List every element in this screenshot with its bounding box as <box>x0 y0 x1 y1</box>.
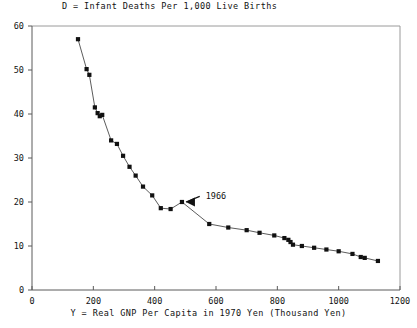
data-point-marker[interactable] <box>127 165 131 169</box>
data-point-marker[interactable] <box>359 255 363 259</box>
data-point-marker[interactable] <box>150 193 154 197</box>
data-point-marker[interactable] <box>134 174 138 178</box>
annotation-label-1966: 1966 <box>206 191 226 201</box>
data-point-marker[interactable] <box>272 233 276 237</box>
data-point-marker[interactable] <box>84 67 88 71</box>
y-axis-tick-label: 0 <box>19 285 24 295</box>
data-point-marker[interactable] <box>93 105 97 109</box>
y-axis-tick-label: 40 <box>14 109 24 119</box>
data-point-marker[interactable] <box>141 185 145 189</box>
x-axis-tick-label: 600 <box>208 296 223 306</box>
y-axis-tick-label: 20 <box>14 197 24 207</box>
data-point-marker[interactable] <box>337 249 341 253</box>
data-point-marker[interactable] <box>159 206 163 210</box>
data-point-marker[interactable] <box>115 142 119 146</box>
data-point-marker[interactable] <box>245 228 249 232</box>
y-axis-tick-label: 30 <box>14 153 24 163</box>
x-axis-tick-label: 800 <box>270 296 285 306</box>
y-axis-tick-label: 60 <box>14 21 24 31</box>
data-point-marker[interactable] <box>300 244 304 248</box>
data-point-marker[interactable] <box>87 73 91 77</box>
data-point-marker[interactable] <box>207 222 211 226</box>
data-point-marker[interactable] <box>169 207 173 211</box>
data-point-marker[interactable] <box>76 37 80 41</box>
data-point-marker[interactable] <box>291 243 295 247</box>
data-point-marker[interactable] <box>376 259 380 263</box>
chart-plot-area: 01020304050600200400600800100012001966 <box>0 0 417 328</box>
annotation-arrow-head <box>186 198 195 207</box>
x-axis-tick-label: 0 <box>29 296 34 306</box>
data-point-marker[interactable] <box>324 247 328 251</box>
data-point-marker[interactable] <box>109 138 113 142</box>
x-axis-tick-label: 1000 <box>328 296 348 306</box>
data-point-marker[interactable] <box>257 231 261 235</box>
data-point-marker[interactable] <box>100 113 104 117</box>
data-point-marker[interactable] <box>226 225 230 229</box>
data-point-marker[interactable] <box>350 252 354 256</box>
chart-container: D = Infant Deaths Per 1,000 Live Births … <box>0 0 417 328</box>
data-point-marker[interactable] <box>121 154 125 158</box>
x-axis-tick-label: 1200 <box>390 296 410 306</box>
data-point-marker[interactable] <box>282 236 286 240</box>
y-axis-tick-label: 10 <box>14 241 24 251</box>
data-point-marker[interactable] <box>312 246 316 250</box>
y-axis-tick-label: 50 <box>14 65 24 75</box>
data-point-marker[interactable] <box>363 256 367 260</box>
data-point-marker[interactable] <box>180 200 184 204</box>
x-axis-label: Y = Real GNP Per Capita in 1970 Yen (Tho… <box>0 308 417 318</box>
x-axis-tick-label: 200 <box>86 296 101 306</box>
x-axis-tick-label: 400 <box>147 296 162 306</box>
